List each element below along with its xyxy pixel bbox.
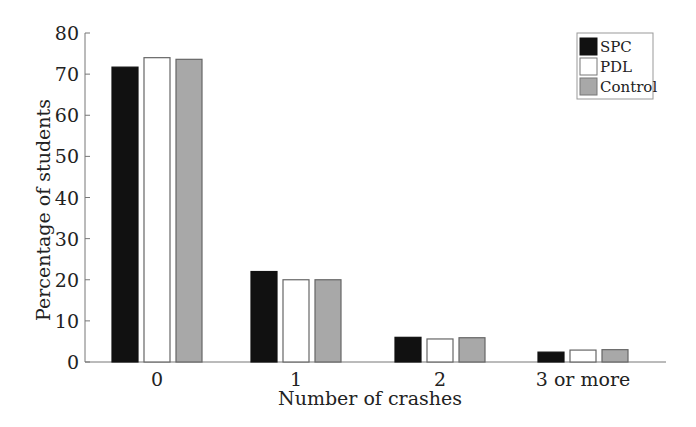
y-tick-label: 0 [67, 351, 79, 373]
y-tick-label: 80 [55, 22, 79, 44]
bar-group [395, 337, 485, 362]
bar-chart: 01020304050607080 0123 or more Percentag… [0, 0, 696, 427]
bar-spc [112, 67, 138, 362]
y-tick-label: 10 [55, 310, 79, 332]
bar-group [538, 350, 628, 362]
y-tick-label: 30 [55, 228, 79, 250]
bars [112, 58, 628, 362]
y-tick-label: 70 [55, 63, 79, 85]
y-axis: 01020304050607080 [55, 22, 90, 373]
bar-control [459, 338, 485, 362]
y-tick-label: 50 [55, 145, 79, 167]
y-axis-title: Percentage of students [32, 99, 54, 321]
legend-swatch-spc [580, 38, 597, 55]
bar-spc [538, 352, 564, 362]
bar-control [176, 59, 202, 362]
legend-swatch-pdl [580, 58, 597, 75]
bar-pdl [570, 350, 596, 362]
x-axis-title: Number of crashes [278, 387, 462, 409]
bar-control [315, 280, 341, 362]
bar-pdl [427, 339, 453, 362]
bar-pdl [144, 58, 170, 362]
x-tick-label: 0 [151, 368, 163, 390]
bar-spc [251, 272, 277, 362]
legend-label-control: Control [600, 78, 657, 96]
y-tick-label: 60 [55, 104, 79, 126]
bar-group [251, 272, 341, 362]
bar-spc [395, 337, 421, 362]
legend-label-pdl: PDL [600, 58, 632, 76]
y-tick-label: 40 [55, 187, 79, 209]
legend-label-spc: SPC [600, 38, 632, 56]
legend-swatch-control [580, 78, 597, 95]
legend: SPCPDLControl [577, 33, 657, 99]
bar-control [602, 350, 628, 362]
y-tick-label: 20 [55, 269, 79, 291]
x-axis: 0123 or more [85, 362, 666, 390]
bar-group [112, 58, 202, 362]
bar-pdl [283, 280, 309, 362]
x-tick-label: 3 or more [536, 368, 630, 390]
